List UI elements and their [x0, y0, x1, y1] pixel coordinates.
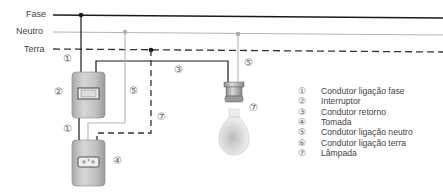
lamp-holder: [224, 82, 244, 102]
terra-label: Terra: [24, 45, 45, 54]
lamp-bulb: [219, 109, 249, 155]
legend: ① Condutor ligação fase ② Interruptor ③ …: [298, 86, 413, 158]
legend-item: ⑥ Condutor ligação terra: [298, 137, 413, 147]
marker-1-top: ①: [63, 54, 72, 64]
marker-7-lamp: ⑦: [249, 103, 258, 113]
marker-2: ②: [54, 87, 63, 97]
legend-item: ④ Tomada: [298, 117, 413, 127]
marker-7-left: ⑦: [157, 112, 166, 122]
fase-label: Fase: [26, 10, 46, 19]
neutro-label: Neutro: [16, 27, 43, 36]
marker-3: ③: [174, 65, 183, 75]
legend-item: ⑤ Condutor ligação neutro: [298, 127, 413, 137]
legend-item: ② Interruptor: [298, 96, 413, 106]
legend-item: ③ Condutor retorno: [298, 107, 413, 117]
marker-4: ④: [113, 156, 122, 166]
legend-item: ① Condutor ligação fase: [298, 86, 413, 96]
marker-1-bottom: ①: [63, 124, 72, 134]
socket: [72, 140, 105, 186]
fase-line: [53, 15, 443, 18]
switch: [72, 72, 105, 118]
marker-5-right: ⑤: [244, 58, 253, 68]
marker-5-left: ⑤: [129, 86, 138, 96]
neutro-line: [53, 32, 443, 35]
terra-line: [53, 49, 443, 52]
legend-item: ⑦ Lâmpada: [298, 148, 413, 158]
